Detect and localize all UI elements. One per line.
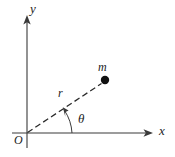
polar-coordinate-diagram: y x O m r θ xyxy=(0,0,175,157)
origin-label: O xyxy=(14,134,23,146)
y-axis-label: y xyxy=(30,2,36,15)
radial-dashed-line xyxy=(28,84,102,133)
angle-label: θ xyxy=(78,112,84,125)
mass-label: m xyxy=(98,61,107,73)
mass-point-dot xyxy=(101,76,109,84)
radius-label: r xyxy=(58,87,63,99)
diagram-canvas xyxy=(0,0,175,157)
angle-arc xyxy=(65,111,73,134)
x-axis-label: x xyxy=(159,124,165,137)
